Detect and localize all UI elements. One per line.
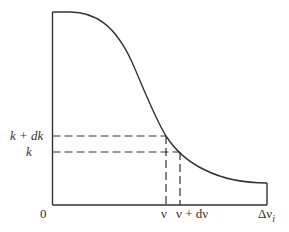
- x-label-delta-nu-i: Δνi: [258, 206, 275, 224]
- x-label-subscript-i: i: [272, 213, 275, 224]
- x-label-nu-plus-dnu: ν + dν: [176, 206, 208, 221]
- y-label-k: k: [26, 144, 32, 159]
- x-label-delta-nu: Δν: [258, 206, 272, 221]
- x-label-nu: ν: [161, 206, 167, 221]
- y-label-k-plus-dk: k + dk: [10, 128, 44, 143]
- diagram-canvas: 0 k + dk k ν ν + dν Δνi: [0, 0, 289, 232]
- k-curve: [53, 12, 268, 183]
- origin-label: 0: [40, 206, 47, 221]
